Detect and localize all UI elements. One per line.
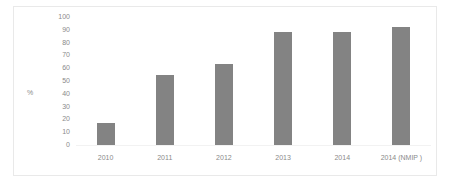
y-axis-tick-label: 70 [44,51,70,59]
bar [156,75,174,145]
bar-chart-figure: % 1009080706050403020100 201020112012201… [0,0,450,184]
bar [97,123,115,145]
x-axis-baseline [76,145,431,146]
y-axis-tick-label: 100 [44,13,70,21]
y-axis-tick-label: 90 [44,26,70,34]
bar [215,64,233,145]
y-axis-tick-label: 0 [44,141,70,149]
bar [333,32,351,145]
y-axis-tick-label: 10 [44,128,70,136]
y-axis-tick-label: 40 [44,90,70,98]
y-axis-tick-label: 20 [44,115,70,123]
x-axis-tick-label: 2014 (NMIP ) [361,153,441,162]
bar [274,32,292,145]
x-axis-tick-labels: 201020112012201320142014 (NMIP ) [76,153,431,167]
plot-area [76,17,431,145]
bar [392,27,410,145]
y-axis-tick-label: 60 [44,64,70,72]
y-axis-tick-labels: 1009080706050403020100 [44,11,70,149]
y-axis-tick-label: 30 [44,103,70,111]
y-axis-title: % [22,89,38,96]
y-axis-tick-label: 80 [44,39,70,47]
y-axis-tick-label: 50 [44,77,70,85]
